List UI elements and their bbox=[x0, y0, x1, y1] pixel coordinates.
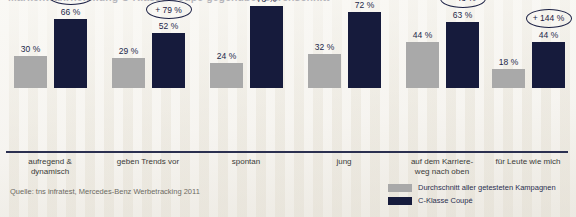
bar-average: 30 % bbox=[14, 56, 47, 88]
legend-swatch-coupe bbox=[388, 197, 412, 205]
category-label-line: weg nach oben bbox=[383, 167, 501, 177]
bar-coupe: 52 % bbox=[152, 33, 185, 88]
bar-value-average: 18 % bbox=[499, 57, 518, 67]
bar-value-coupe: 63 % bbox=[453, 10, 472, 20]
uplift-badge: + 43 % bbox=[446, 0, 479, 8]
legend-swatch-average bbox=[388, 184, 412, 192]
bar-coupe: 66 % bbox=[54, 19, 87, 88]
bar-value-average: 24 % bbox=[217, 51, 236, 61]
bar-average: 32 % bbox=[308, 54, 341, 88]
source-note: Quelle: tns infratest, Mercedes-Benz Wer… bbox=[10, 187, 200, 196]
chart-legend: Durchschnitt aller getesteten Kampagnen … bbox=[388, 182, 556, 208]
x-axis-line bbox=[6, 151, 568, 153]
bar-coupe: 44 % bbox=[532, 42, 565, 88]
uplift-badge: + 120 % bbox=[54, 0, 87, 5]
bar-value-average: 32 % bbox=[315, 42, 334, 52]
bar-coupe: 78 % bbox=[250, 6, 283, 88]
bar-value-coupe: 72 % bbox=[355, 0, 374, 10]
bar-chart: Markenwahrnehmung C-Klasse Coupé gegenüb… bbox=[0, 0, 576, 217]
legend-item-coupe: C-Klasse Coupé bbox=[388, 195, 556, 206]
bar-value-average: 30 % bbox=[21, 44, 40, 54]
bar-average: 24 % bbox=[210, 63, 243, 88]
legend-label-coupe: C-Klasse Coupé bbox=[418, 196, 473, 205]
bar-value-average: 44 % bbox=[413, 30, 432, 40]
plot-area: 30 %66 %+ 120 %aufregend &dynamisch29 %5… bbox=[0, 0, 576, 153]
uplift-badge-label: + 43 % bbox=[440, 0, 486, 8]
bar-coupe: 63 % bbox=[446, 22, 479, 88]
bar-value-coupe: 66 % bbox=[61, 7, 80, 17]
uplift-badge-label: + 144 % bbox=[526, 9, 572, 28]
uplift-badge: + 79 % bbox=[152, 0, 185, 19]
bar-coupe: 72 % bbox=[348, 12, 381, 88]
legend-item-average: Durchschnitt aller getesteten Kampagnen bbox=[388, 182, 556, 193]
bar-value-coupe: 44 % bbox=[539, 30, 558, 40]
bar-average: 29 % bbox=[112, 58, 145, 88]
category-label: für Leute wie mich bbox=[469, 157, 576, 167]
uplift-badge-label: + 79 % bbox=[146, 0, 192, 19]
legend-label-average: Durchschnitt aller getesteten Kampagnen bbox=[418, 183, 556, 192]
bar-value-coupe: 78 % bbox=[257, 0, 276, 4]
bar-average: 18 % bbox=[492, 69, 525, 88]
category-label-line: für Leute wie mich bbox=[469, 157, 576, 167]
category-label-line: dynamisch bbox=[0, 167, 109, 177]
bar-average: 44 % bbox=[406, 42, 439, 88]
bar-value-coupe: 52 % bbox=[159, 21, 178, 31]
bar-value-average: 29 % bbox=[119, 46, 138, 56]
uplift-badge-label: + 120 % bbox=[48, 0, 94, 5]
uplift-badge: + 144 % bbox=[532, 9, 565, 28]
